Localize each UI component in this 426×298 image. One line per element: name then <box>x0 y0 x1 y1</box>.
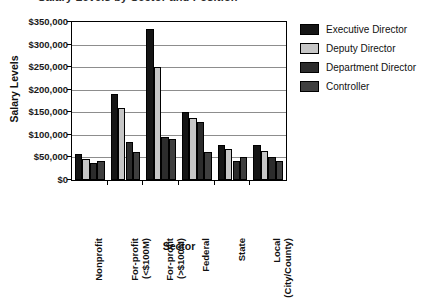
x-axis-tick-mark <box>142 181 143 185</box>
y-axis-tick-label: $350,000 <box>4 16 68 27</box>
bar <box>126 142 133 180</box>
legend-label: Department Director <box>326 62 416 73</box>
legend-swatch <box>300 62 319 73</box>
x-axis-tick-mark <box>214 181 215 185</box>
bar <box>261 151 268 180</box>
bar <box>169 139 176 180</box>
legend-item: Executive Director <box>300 20 424 38</box>
y-axis-title: Salary Levels <box>8 37 20 141</box>
bar <box>218 145 225 180</box>
chart-title: Salary Levels by Sector and Position <box>38 0 338 5</box>
bar <box>154 67 161 180</box>
x-axis-tick-mark <box>178 181 179 185</box>
bar <box>75 154 82 180</box>
legend-item: Controller <box>300 77 424 95</box>
bar <box>253 145 260 180</box>
y-axis-tick-label: $50,000 <box>4 151 68 162</box>
bar <box>97 161 104 180</box>
bar <box>225 149 232 180</box>
bar <box>233 161 240 180</box>
legend-swatch <box>300 24 319 35</box>
x-axis-title: Sector <box>71 240 287 252</box>
bar <box>204 152 211 180</box>
bar <box>82 159 89 180</box>
bar <box>133 152 140 180</box>
bar <box>118 108 125 180</box>
bar <box>90 163 97 180</box>
legend-label: Executive Director <box>326 24 407 35</box>
bar <box>268 157 275 180</box>
bar <box>197 122 204 180</box>
y-axis-tick-label: $0 <box>4 174 68 185</box>
bar <box>276 161 283 180</box>
x-axis-tick-mark <box>249 181 250 185</box>
legend: Executive DirectorDeputy DirectorDepartm… <box>300 20 424 96</box>
bar <box>111 94 118 180</box>
legend-swatch <box>300 43 319 54</box>
legend-label: Deputy Director <box>326 43 395 54</box>
bar <box>189 118 196 180</box>
legend-swatch <box>300 81 319 92</box>
bars-layer <box>72 22 286 180</box>
bar <box>161 137 168 180</box>
bar <box>182 112 189 180</box>
legend-item: Department Director <box>300 58 424 76</box>
bar <box>146 29 153 180</box>
x-axis-tick-mark <box>107 181 108 185</box>
legend-item: Deputy Director <box>300 39 424 57</box>
legend-label: Controller <box>326 81 369 92</box>
bar <box>240 157 247 180</box>
x-axis-labels: NonprofitFor-profit(<$100M)For-profit(>$… <box>71 182 287 244</box>
